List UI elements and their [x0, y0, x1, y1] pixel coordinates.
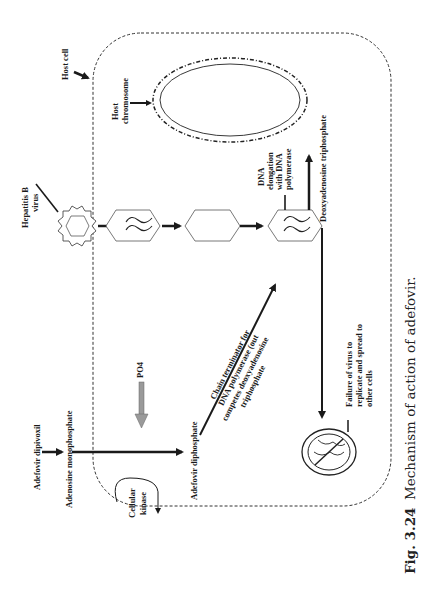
- viral-capsid-with-dna: [106, 210, 166, 270]
- hepatitis-b-virus-icon: [58, 206, 96, 246]
- host-chromosome: [160, 64, 300, 136]
- host-chromosome-label-1: Host: [110, 103, 120, 120]
- adefovir-dipivoxil-label: Adefovir dipivoxil: [32, 424, 42, 490]
- host-chromosome-outer: [153, 58, 307, 142]
- empty-capsid: [185, 210, 240, 241]
- po4-label: PO4: [135, 361, 145, 378]
- adefovir-diphosphate-label: Adefovir diphosphate: [189, 421, 199, 500]
- host-cell-dashed-outline: [145, 33, 391, 506]
- hbv-label-1: Hepatitis B: [20, 187, 30, 228]
- failure-label-1: Failure of virus to: [344, 342, 354, 407]
- capsid-dna-elongation: [268, 210, 322, 241]
- adenosine-monophosphate-label: Adenosine monophosphate: [64, 410, 74, 508]
- host-chromosome-label-2: chromosome: [120, 78, 130, 124]
- cellular-kinase-label-2: kinase: [138, 492, 148, 515]
- datp-label: Deoxyadenosine triphosphate: [318, 115, 328, 222]
- chain-terminator-label: Chain terminator for DNA polymerase (out…: [202, 326, 280, 427]
- adefovir-mechanism-diagram: Host cell Host chromosome Hepatitis B vi…: [0, 0, 433, 604]
- po4-arrow: [135, 382, 148, 428]
- caption-text: Mechanism of action of adefovir.: [402, 277, 418, 500]
- hbv-label-2: virus: [30, 193, 40, 212]
- cellular-kinase-label-1: Cellular: [127, 488, 137, 518]
- host-cell-arrow: [74, 72, 88, 78]
- caption-number: Fig. 3.24: [402, 508, 418, 574]
- dna-elongation-label-4: polymerase: [283, 148, 293, 190]
- host-cell-label: Host cell: [60, 48, 70, 80]
- failure-label-2: replicate and spread to: [354, 324, 364, 407]
- no-virus-icon: [302, 429, 356, 475]
- failure-label-3: other cells: [364, 369, 374, 407]
